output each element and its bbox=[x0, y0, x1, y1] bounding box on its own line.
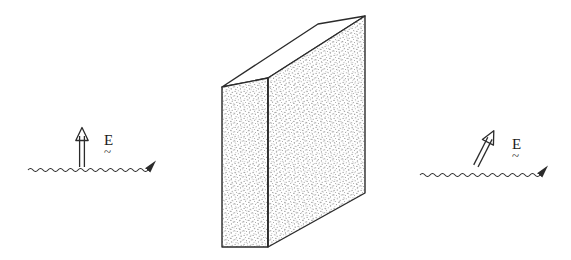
transmitted-field-label: E ~ bbox=[512, 136, 521, 163]
polarization-figure: E ~ E ~ bbox=[0, 0, 571, 260]
figure-canvas: E ~ E ~ bbox=[0, 0, 571, 260]
incident-field-label: E ~ bbox=[104, 132, 113, 159]
incident-field-arrow bbox=[76, 128, 88, 168]
incident-field-label-accent: ~ bbox=[104, 144, 111, 159]
transmitted-wave-group: E ~ bbox=[420, 128, 540, 177]
transmitted-field-arrow bbox=[470, 128, 499, 169]
transmitted-field-label-accent: ~ bbox=[512, 148, 519, 163]
slab-side-face-stipple2 bbox=[222, 78, 268, 247]
dielectric-slab bbox=[222, 16, 365, 247]
incident-wavy-ray bbox=[28, 169, 148, 172]
incident-wave-group: E ~ bbox=[28, 128, 148, 172]
transmitted-wavy-ray bbox=[420, 174, 540, 177]
